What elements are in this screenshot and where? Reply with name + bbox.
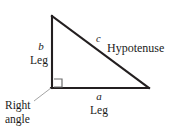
side-b-name-label: Leg [26, 54, 52, 66]
right-angle-marker-icon [54, 79, 62, 87]
right-triangle-figure: b Leg a Leg c Hypotenuse Right angle [0, 0, 170, 134]
side-c-symbol-label: c [96, 33, 101, 44]
hypotenuse-name-label: Hypotenuse [107, 42, 164, 55]
right-angle-label-line1: Right [5, 99, 31, 111]
right-angle-label-line2: angle [5, 113, 30, 125]
right-angle-leader-line [34, 88, 51, 101]
side-a-symbol-label: a [88, 91, 110, 103]
side-b-symbol-label: b [30, 41, 52, 53]
side-a-name-label: Leg [85, 104, 113, 116]
